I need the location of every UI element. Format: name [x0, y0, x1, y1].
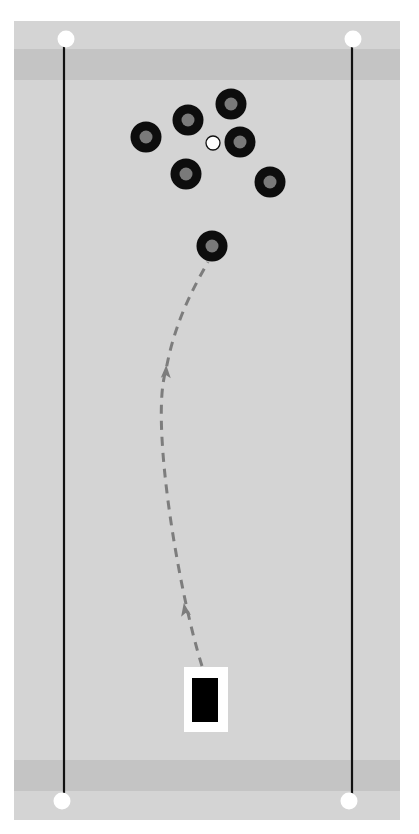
- stone: [197, 231, 228, 262]
- hack-block: [192, 678, 218, 722]
- top-right-dot: [345, 31, 362, 48]
- bottom-band: [14, 760, 400, 791]
- stone: [216, 89, 247, 120]
- diagram-canvas: [0, 0, 419, 834]
- bottom-right-dot: [341, 793, 358, 810]
- stone: [131, 122, 162, 153]
- target-button: [206, 136, 220, 150]
- top-band: [14, 49, 400, 80]
- hack: [184, 667, 228, 732]
- curling-drill-diagram: [0, 0, 419, 834]
- stone: [255, 167, 286, 198]
- stone: [173, 105, 204, 136]
- bottom-left-dot: [54, 793, 71, 810]
- top-left-dot: [58, 31, 75, 48]
- stone: [171, 159, 202, 190]
- stone: [225, 127, 256, 158]
